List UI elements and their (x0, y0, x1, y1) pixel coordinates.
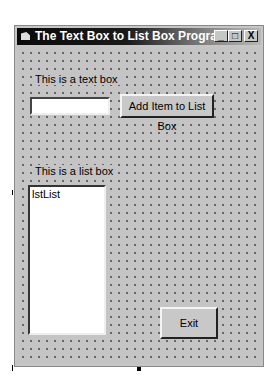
listbox-label: This is a list box (33, 165, 115, 177)
form-design-surface: This is a text box Add Item to List Box … (17, 47, 261, 364)
left-edge-marker (12, 190, 13, 195)
add-item-button[interactable]: Add Item to List Box (120, 94, 214, 118)
title-bar[interactable]: The Text Box to List Box Program _ □ X (17, 28, 261, 45)
maximize-button[interactable]: □ (228, 30, 242, 42)
text-input[interactable] (30, 97, 110, 115)
window-title: The Text Box to List Box Program (35, 28, 227, 45)
list-box[interactable]: lstList (28, 185, 106, 335)
resize-handle[interactable] (137, 367, 141, 371)
app-icon[interactable] (21, 32, 30, 40)
close-button[interactable]: X (244, 30, 258, 42)
list-item[interactable]: lstList (32, 188, 102, 200)
form-window: The Text Box to List Box Program _ □ X T… (14, 25, 264, 367)
minimize-button[interactable]: _ (214, 30, 228, 42)
exit-button[interactable]: Exit (160, 307, 218, 339)
textbox-label: This is a text box (33, 73, 120, 85)
corner-marker (12, 365, 13, 371)
